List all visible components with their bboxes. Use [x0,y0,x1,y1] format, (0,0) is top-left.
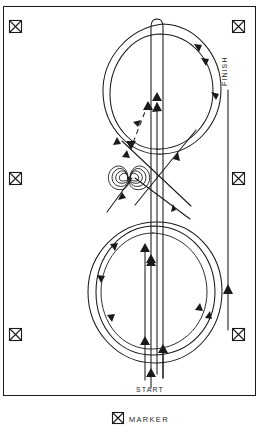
marker-top-left [10,21,22,33]
lower-loop-outer [88,222,222,363]
marker-mid-left [10,173,22,185]
lower-loop-inner [96,226,215,355]
arrow-upper-inner-sw [122,150,130,158]
course-diagram: START FINISH MARKER [0,0,259,442]
arrow-lower-inner-se [195,303,203,311]
arrow-upper-outer-sw [113,137,121,145]
spiral-crossover-knot [108,166,149,190]
start-run [140,102,168,380]
legend-marker-label: MARKER [129,415,169,424]
start-label: START [136,386,164,393]
central-spine [146,19,163,388]
marker-top-right [233,21,245,33]
dashed-entry-path [126,101,153,150]
marker-bottom-right [233,329,245,341]
upper-loop-inner [110,34,213,158]
arrow-dashed-mid [133,120,141,127]
arrow-spine-down-bottom [146,368,156,377]
finish-line-run [223,90,233,330]
arrow-spine-up-mid [152,102,162,112]
diagram-frame [4,7,256,396]
lower-loop-third [101,233,207,349]
diagram-canvas: START FINISH MARKER [0,0,259,442]
arrow-lower-outer-w [97,275,105,283]
marker-mid-right [233,173,245,185]
arrow-start-up-a [140,243,150,252]
legend-marker-icon [113,413,124,424]
upper-loop-outer [103,24,221,154]
arrow-finish-up [223,284,233,294]
arrow-lower-inner-sw [107,314,115,322]
arrow-spine-down-upper [152,92,162,101]
finish-label: FINISH [221,56,228,86]
marker-bottom-left [10,329,22,341]
arrow-start-up-b [140,336,150,345]
